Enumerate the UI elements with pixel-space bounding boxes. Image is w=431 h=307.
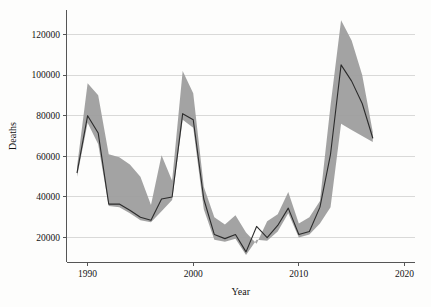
x-tick-label: 2000: [184, 269, 203, 279]
line-chart-with-confidence-band: 20000400006000080000100000120000 1990200…: [0, 0, 431, 307]
y-tick-label: 20000: [36, 233, 60, 243]
y-tick-label: 80000: [36, 111, 60, 121]
chart-background: [0, 0, 431, 307]
y-tick-label: 100000: [32, 70, 61, 80]
x-axis-title: Year: [232, 286, 251, 297]
chart-figure: 20000400006000080000100000120000 1990200…: [0, 0, 431, 307]
x-tick-label: 1990: [78, 269, 97, 279]
y-tick-label: 40000: [36, 192, 60, 202]
y-tick-label: 60000: [36, 152, 60, 162]
x-tick-label: 2010: [289, 269, 308, 279]
y-tick-label: 120000: [32, 30, 61, 40]
x-tick-label: 2020: [395, 269, 414, 279]
y-axis-title: Deaths: [7, 122, 18, 150]
